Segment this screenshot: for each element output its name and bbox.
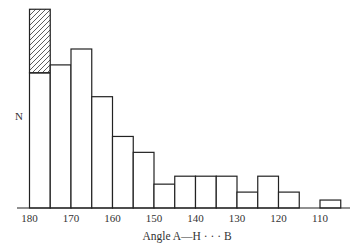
histogram-bar (71, 49, 92, 208)
histogram-bar (279, 192, 300, 208)
x-tick-label: 160 (104, 212, 121, 224)
histogram-bar (258, 176, 279, 208)
x-tick-label: 180 (21, 212, 38, 224)
x-axis-label: Angle A—H · · · B (142, 230, 231, 243)
histogram-bar (175, 176, 196, 208)
histogram-bar (133, 152, 154, 208)
histogram-bar (154, 184, 175, 208)
x-tick-label: 130 (229, 212, 246, 224)
histogram-bar (113, 136, 134, 208)
y-axis-label: N (15, 110, 23, 122)
histogram-bar (320, 200, 341, 208)
histogram-bar (92, 97, 113, 208)
histogram-bar (216, 176, 237, 208)
histogram-bar (237, 192, 258, 208)
x-tick-label: 120 (270, 212, 287, 224)
bars-group (30, 9, 341, 208)
histogram-chart: 180170160150140130120110 N Angle A—H · ·… (0, 0, 361, 251)
histogram-bar (196, 176, 217, 208)
x-tick-label: 150 (146, 212, 163, 224)
histogram-bar-hatched (30, 9, 51, 73)
histogram-bar (50, 65, 71, 208)
x-tick-label: 110 (312, 212, 329, 224)
x-tick-label: 170 (63, 212, 80, 224)
histogram-bar (30, 73, 51, 208)
x-tick-labels: 180170160150140130120110 (21, 212, 328, 224)
x-tick-label: 140 (187, 212, 204, 224)
